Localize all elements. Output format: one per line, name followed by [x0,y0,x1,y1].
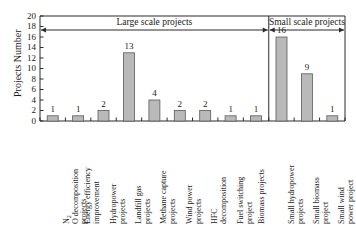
bar [124,53,135,121]
bar-value-label: 9 [297,63,317,72]
y-tick-label: 2 [20,106,36,115]
x-category-label: Small windpower project [338,180,355,224]
x-category-label: Fuel switchingproject [237,177,254,224]
bar [301,74,312,121]
x-category-label: Small biomassproject [313,177,330,224]
bar [200,111,211,122]
y-axis-title: Projects Number [13,30,23,98]
x-category-label: Energy efficiencyimprovement [84,167,101,224]
x-category-label: Small hydropowerprojects [288,165,305,224]
bar-value-label: 4 [144,89,164,98]
bar [225,116,236,121]
x-category-label: Methane captureprojects [160,170,177,224]
bar [149,100,160,121]
bar-value-label: 2 [170,100,190,109]
bar-value-label: 13 [119,42,139,51]
bar [327,116,338,121]
bar [276,37,287,121]
small-scale-section-label: Small scale projects [259,18,355,28]
large-scale-arrow-head-right [263,27,268,32]
x-category-label: Hydropowerprojects [110,184,127,224]
bar [98,111,109,122]
x-category-label: Landfill gasprojects [135,186,152,224]
bar [251,116,262,121]
bar-value-label: 2 [195,100,215,109]
bar [47,116,58,121]
bar-value-label: 1 [43,105,63,114]
y-tick-label: 20 [20,12,36,21]
bar-value-label: 1 [221,105,241,114]
bar-value-label: 1 [322,105,342,114]
bar [174,111,185,122]
x-category-label: Wind powerprojects [186,185,203,224]
bar-value-label: 2 [94,100,114,109]
large-scale-section-label: Large scale projects [99,18,209,28]
small-scale-arrow-head-right [339,27,344,32]
bar-value-label: 1 [246,105,266,114]
bar-value-label: 1 [68,105,88,114]
bar [73,116,84,121]
large-scale-arrow-head-left [41,27,46,32]
x-category-label: HFCdecomposition [211,177,228,224]
x-category-label: Biomass projects [258,169,267,224]
y-tick-label: 0 [20,117,36,126]
